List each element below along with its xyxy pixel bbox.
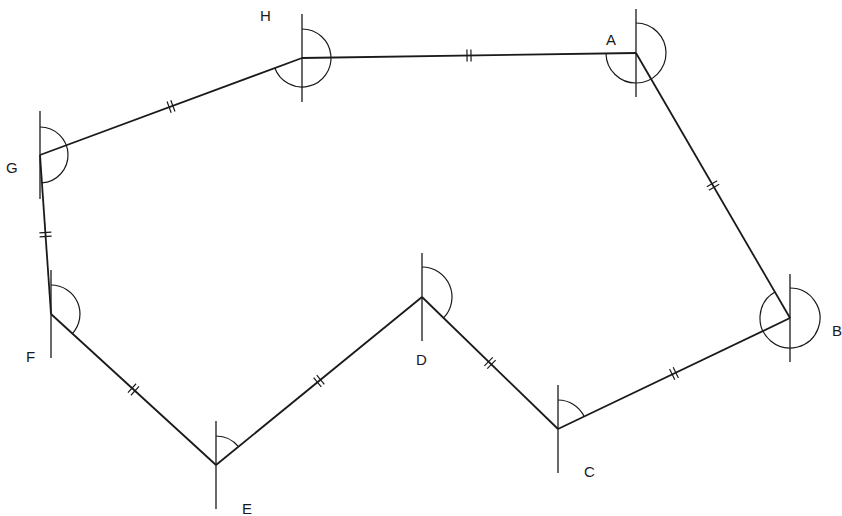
angle-arc-D — [422, 267, 452, 318]
edge-CD — [422, 297, 558, 429]
vertex-label-A: A — [606, 32, 616, 47]
vertex-label-E: E — [242, 501, 252, 516]
edge-EF — [51, 314, 216, 465]
angle-arc-G — [40, 127, 68, 183]
edge-HA — [302, 53, 636, 58]
edge-BC — [558, 318, 790, 429]
angle-arc-E — [216, 436, 238, 447]
vertex-label-H: H — [260, 8, 271, 23]
north-meridian-lines — [40, 9, 790, 509]
vertex-label-G: G — [6, 160, 18, 175]
edge-DE — [216, 297, 422, 465]
vertex-label-C: C — [584, 464, 595, 479]
vertex-label-F: F — [26, 349, 35, 364]
angle-arcs — [40, 23, 820, 447]
polygon-edges — [40, 53, 790, 465]
angle-arc-C — [558, 400, 584, 416]
vertex-label-B: B — [832, 323, 842, 338]
equal-length-tick-marks — [39, 49, 719, 395]
edge-FG — [40, 155, 51, 314]
edge-AB — [636, 53, 790, 318]
vertex-label-D: D — [416, 352, 427, 367]
edge-GH — [40, 58, 302, 155]
